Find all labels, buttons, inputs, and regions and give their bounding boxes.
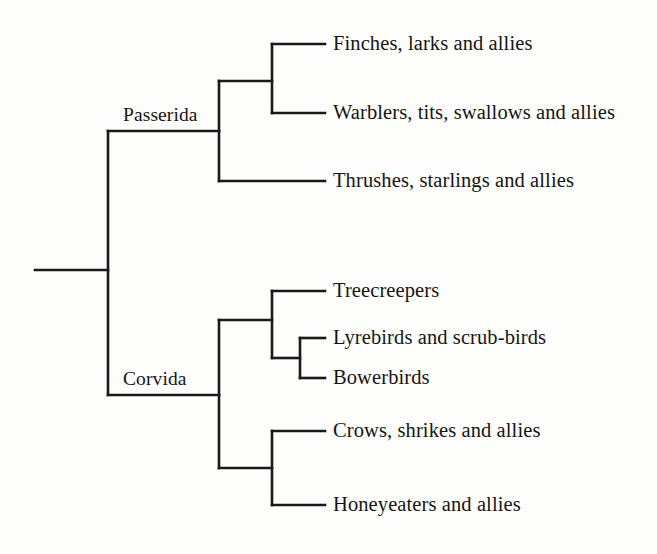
tip-label-thrushes-starlings: Thrushes, starlings and allies	[333, 170, 574, 191]
tip-label-warblers-tits-swallows: Warblers, tits, swallows and allies	[333, 102, 615, 123]
cladogram-figure: Passerida Corvida Finches, larks and all…	[0, 0, 657, 554]
tip-label-crows-shrikes: Crows, shrikes and allies	[333, 420, 540, 441]
tip-label-treecreepers: Treecreepers	[333, 280, 439, 301]
tip-label-finches-larks: Finches, larks and allies	[333, 33, 532, 54]
tip-label-lyrebirds-scrubbirds: Lyrebirds and scrub-birds	[333, 327, 546, 348]
phylogenetic-tree-lines	[0, 0, 657, 554]
tip-label-honeyeaters: Honeyeaters and allies	[333, 494, 521, 515]
tip-label-bowerbirds: Bowerbirds	[333, 367, 430, 388]
clade-label-corvida: Corvida	[123, 369, 187, 389]
clade-label-passerida: Passerida	[123, 105, 198, 125]
